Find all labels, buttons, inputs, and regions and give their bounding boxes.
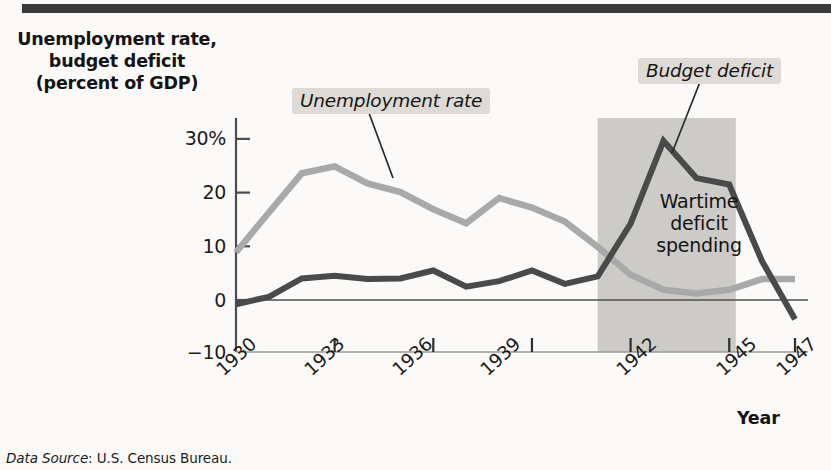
x-tick-label-1942: 1942 xyxy=(612,333,660,379)
leader-line-unemployment xyxy=(369,113,393,178)
legend-callout-deficit: Budget deficit xyxy=(638,58,781,84)
data-source-text: : U.S. Census Bureau. xyxy=(88,450,232,466)
wartime-band-label: Wartime deficit spending xyxy=(624,190,774,256)
data-source-caption: Data Source: U.S. Census Bureau. xyxy=(6,450,232,466)
y-tick-label-10: 10 xyxy=(156,235,226,257)
x-tick-label-1945: 1945 xyxy=(712,333,760,379)
x-tick-label-1947: 1947 xyxy=(772,333,820,379)
wartime-band-label-line-2: deficit xyxy=(624,212,774,234)
top-divider-rule xyxy=(22,4,831,13)
x-tick-label-1939: 1939 xyxy=(476,333,524,379)
y-tick-label-minus10: −10 xyxy=(146,341,226,363)
x-tick-label-1933: 1933 xyxy=(300,333,348,379)
y-axis-title-line-2: budget deficit xyxy=(6,50,228,72)
x-tick-label-1936: 1936 xyxy=(388,333,436,379)
y-axis-title-line-3: (percent of GDP) xyxy=(6,72,228,94)
x-axis-title: Year xyxy=(737,408,780,428)
y-tick-label-0: 0 xyxy=(156,289,226,311)
y-axis-title: Unemployment rate, budget deficit (perce… xyxy=(6,28,228,94)
y-tick-label-30: 30% xyxy=(156,127,226,149)
y-axis-title-line-1: Unemployment rate, xyxy=(6,28,228,50)
y-tick-label-20: 20 xyxy=(156,181,226,203)
data-source-prefix: Data Source xyxy=(6,450,88,466)
wartime-band-label-line-1: Wartime xyxy=(624,190,774,212)
legend-callout-unemployment: Unemployment rate xyxy=(292,88,490,114)
leader-line-deficit xyxy=(672,82,700,153)
wartime-band-label-line-3: spending xyxy=(624,234,774,256)
